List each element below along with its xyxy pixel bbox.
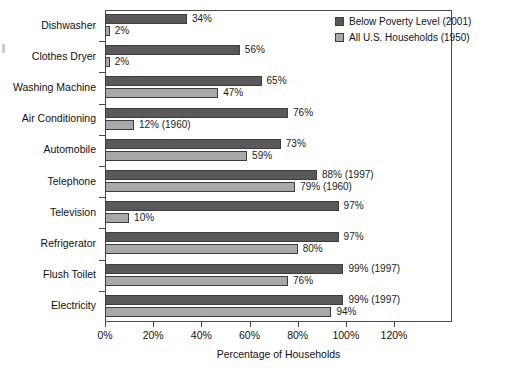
legend-label-all-households: All U.S. Households (1950) [349, 32, 470, 43]
bar-group: 76%12% (1960) [105, 104, 452, 135]
bar [105, 307, 331, 317]
bar-value-label: 99% (1997) [348, 264, 400, 274]
category-axis-labels: DishwasherClothes DryerWashing MachineAi… [0, 10, 101, 322]
bar-group: 65%47% [105, 72, 452, 103]
legend-item: All U.S. Households (1950) [335, 30, 471, 44]
category-label: Air Conditioning [0, 113, 101, 124]
bar [105, 88, 218, 98]
bar-value-label: 76% [293, 276, 313, 286]
x-axis-tick [201, 322, 202, 327]
bar-value-label: 59% [252, 151, 272, 161]
bar [105, 182, 295, 192]
bar-value-label: 65% [267, 76, 287, 86]
bar-value-label: 79% (1960) [300, 182, 352, 192]
chart-legend: Below Poverty Level (2001) All U.S. Hous… [335, 14, 471, 46]
x-axis-tick-label: 120% [381, 329, 408, 341]
bar-value-label: 73% [286, 139, 306, 149]
bar [105, 232, 339, 242]
bar-value-label: 80% [303, 244, 323, 254]
x-axis-tick-label: 60% [239, 329, 260, 341]
bar-value-label: 12% (1960) [139, 120, 191, 130]
x-axis-tick [153, 322, 154, 327]
x-axis-tick-label: 80% [287, 329, 308, 341]
bar [105, 45, 240, 55]
bar [105, 151, 247, 161]
y-axis-tick [99, 135, 105, 136]
bar-value-label: 94% [336, 307, 356, 317]
category-label: Electricity [0, 300, 101, 311]
x-axis-tick [298, 322, 299, 327]
bar [105, 120, 134, 130]
bar [105, 213, 129, 223]
bar-value-label: 10% [134, 213, 154, 223]
y-axis-tick [99, 291, 105, 292]
x-axis-tick-label: 0% [97, 329, 112, 341]
legend-swatch-all-households [335, 33, 344, 42]
x-axis-tick [105, 322, 106, 327]
y-axis-tick [99, 104, 105, 105]
bar-value-label: 2% [115, 26, 129, 36]
bar-group: 97%10% [105, 197, 452, 228]
bar-group: 88% (1997)79% (1960) [105, 166, 452, 197]
bar-value-label: 76% [293, 108, 313, 118]
bar-value-label: 97% [344, 201, 364, 211]
category-label: Dishwasher [0, 20, 101, 31]
x-axis-title: Percentage of Households [105, 348, 452, 360]
category-label: Washing Machine [0, 82, 101, 93]
bar [105, 170, 317, 180]
category-label: Television [0, 207, 101, 218]
y-axis-tick [99, 166, 105, 167]
bar-value-label: 56% [245, 45, 265, 55]
bar [105, 139, 281, 149]
category-label: Refrigerator [0, 238, 101, 249]
bar [105, 57, 110, 67]
bar-value-label: 99% (1997) [348, 295, 400, 305]
y-axis-tick [99, 197, 105, 198]
category-label: Clothes Dryer [0, 51, 101, 62]
category-label: Automobile [0, 144, 101, 155]
bar-value-label: 34% [192, 14, 212, 24]
legend-item: Below Poverty Level (2001) [335, 14, 471, 28]
bar [105, 264, 343, 274]
bar [105, 244, 298, 254]
bar-group: 73%59% [105, 135, 452, 166]
x-axis-tick-label: 40% [191, 329, 212, 341]
y-axis-tick [99, 260, 105, 261]
y-axis-tick [99, 41, 105, 42]
legend-swatch-below-poverty [335, 17, 344, 26]
bar [105, 108, 288, 118]
bar-value-label: 97% [344, 232, 364, 242]
x-axis-tick [346, 322, 347, 327]
bar-group: 99% (1997)76% [105, 260, 452, 291]
bar-group: 99% (1997)94% [105, 291, 452, 322]
bar-value-label: 2% [115, 57, 129, 67]
bar-chart: DishwasherClothes DryerWashing MachineAi… [0, 0, 515, 378]
bar-group: 97%80% [105, 228, 452, 259]
legend-label-below-poverty: Below Poverty Level (2001) [349, 16, 471, 27]
bar-rows: 34%2%56%2%65%47%76%12% (1960)73%59%88% (… [105, 10, 452, 322]
bar [105, 26, 110, 36]
x-axis-tick-label: 100% [332, 329, 359, 341]
y-axis-tick [99, 228, 105, 229]
bar [105, 201, 339, 211]
category-label: Telephone [0, 176, 101, 187]
bar [105, 14, 187, 24]
bar [105, 276, 288, 286]
x-axis-tick-label: 20% [143, 329, 164, 341]
category-label: Flush Toilet [0, 269, 101, 280]
bar [105, 76, 262, 86]
bar-value-label: 47% [223, 88, 243, 98]
y-axis-tick [99, 72, 105, 73]
bar [105, 295, 343, 305]
x-axis-tick [394, 322, 395, 327]
x-axis-tick [250, 322, 251, 327]
bar-value-label: 88% (1997) [322, 170, 374, 180]
